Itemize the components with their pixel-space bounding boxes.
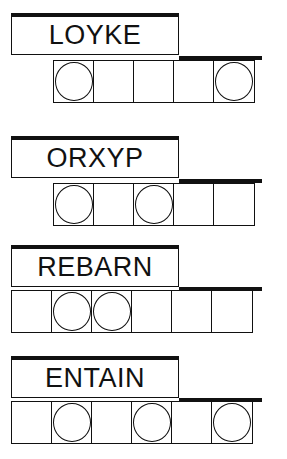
answer-cell[interactable] <box>91 401 133 444</box>
answer-cell[interactable] <box>133 183 175 226</box>
answer-cell[interactable] <box>173 183 215 226</box>
answer-cell[interactable] <box>171 290 213 333</box>
circled-letter-marker <box>53 292 91 331</box>
answer-cell[interactable] <box>53 183 95 226</box>
circled-letter-marker <box>55 185 93 224</box>
jumble-puzzle-4: ENTAIN <box>0 0 287 100</box>
circled-letter-marker <box>133 403 171 442</box>
circled-letter-marker <box>135 185 173 224</box>
answer-cell[interactable] <box>11 290 53 333</box>
answer-cell[interactable] <box>131 290 173 333</box>
circled-letter-marker <box>213 403 251 442</box>
scrambled-word-box: REBARN <box>11 245 179 287</box>
scrambled-word: ENTAIN <box>45 363 145 394</box>
answer-cell[interactable] <box>171 401 213 444</box>
answer-cell[interactable] <box>213 183 255 226</box>
answer-cell[interactable] <box>91 290 133 333</box>
answer-cell[interactable] <box>93 183 135 226</box>
answer-cell[interactable] <box>51 290 93 333</box>
circled-letter-marker <box>53 403 91 442</box>
answer-cells <box>11 401 253 444</box>
answer-cell[interactable] <box>11 401 53 444</box>
answer-cells <box>53 183 255 226</box>
answer-cell[interactable] <box>131 401 173 444</box>
scrambled-word-box: ENTAIN <box>11 356 179 398</box>
scrambled-word: ORXYP <box>46 143 143 174</box>
circled-letter-marker <box>93 292 131 331</box>
answer-cell[interactable] <box>211 290 253 333</box>
answer-cells <box>11 290 253 333</box>
scrambled-word-box: ORXYP <box>11 136 179 178</box>
answer-cell[interactable] <box>51 401 93 444</box>
scrambled-word: REBARN <box>37 252 153 283</box>
answer-cell[interactable] <box>211 401 253 444</box>
